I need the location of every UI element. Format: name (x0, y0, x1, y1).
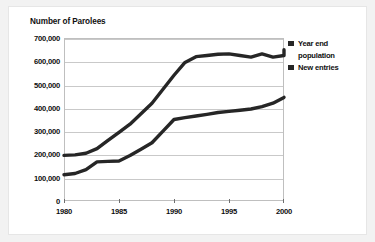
chart-page: Number of Parolees 0100,000200,000300,00… (0, 0, 375, 242)
legend-label: New entries (298, 62, 364, 74)
y-axis-tick-label: 500,000 (34, 80, 60, 89)
y-axis-tick-label: 200,000 (34, 150, 60, 159)
line-year-end-population (64, 50, 284, 156)
square-marker-icon (288, 65, 294, 70)
x-axis-tick-mark (229, 199, 230, 203)
series-lines (64, 38, 284, 201)
legend-item-year-end-population: Year end population (288, 38, 364, 61)
x-axis-tick-mark (174, 199, 175, 203)
x-axis-tick-mark (283, 199, 284, 203)
y-axis-tick-label: 600,000 (34, 57, 60, 66)
x-axis-tick-label: 2000 (276, 207, 292, 216)
square-marker-icon (288, 41, 294, 46)
x-axis-tick-mark (64, 199, 65, 203)
x-axis-tick-label: 1990 (166, 207, 182, 216)
legend-item-new-entries: New entries (288, 62, 364, 74)
chart-card: Number of Parolees 0100,000200,000300,00… (9, 7, 366, 234)
y-axis-tick-label: 0 (56, 197, 60, 206)
plot-wrapper: 0100,000200,000300,000400,000500,000600,… (9, 7, 366, 234)
x-axis-tick-label: 1995 (221, 207, 237, 216)
x-axis-tick-label: 1980 (56, 207, 72, 216)
legend: Year end population New entries (288, 38, 364, 75)
x-axis-tick-label: 1985 (111, 207, 127, 216)
y-axis-tick-label: 400,000 (34, 103, 60, 112)
y-axis-tick-label: 700,000 (34, 34, 60, 43)
x-axis-tick-mark (119, 199, 120, 203)
y-axis-tick-labels: 0100,000200,000300,000400,000500,000600,… (9, 38, 60, 201)
y-axis-tick-label: 100,000 (34, 173, 60, 182)
legend-label: Year end population (298, 38, 364, 61)
line-new-entries (64, 97, 284, 174)
x-axis-tick-labels: 19801985199019952000 (64, 203, 284, 217)
y-axis-tick-label: 300,000 (34, 127, 60, 136)
